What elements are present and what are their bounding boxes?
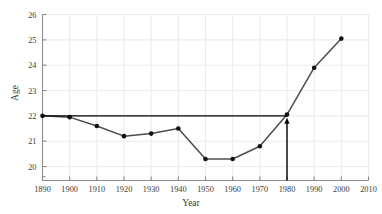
- y-tick-label: 26: [28, 11, 36, 20]
- grid-lines: [43, 15, 369, 181]
- arrow-head-icon: [284, 118, 289, 124]
- data-point-marker: [95, 124, 100, 129]
- data-point-marker: [230, 157, 235, 162]
- y-tick-label: 25: [28, 36, 36, 45]
- y-tick-label: 22: [28, 112, 36, 121]
- data-point-marker: [203, 157, 208, 162]
- data-point-marker: [312, 65, 317, 70]
- x-axis-ticks: 1890190019101920193019401950196019701980…: [34, 177, 377, 194]
- data-point-marker: [122, 134, 127, 139]
- x-tick-label: 1920: [116, 185, 133, 194]
- annotations-layer: [43, 116, 290, 181]
- data-point-marker: [339, 36, 344, 41]
- x-tick-label: 1960: [224, 185, 241, 194]
- x-tick-label: 1940: [170, 185, 187, 194]
- data-point-marker: [149, 131, 154, 136]
- data-point-marker: [176, 126, 181, 131]
- x-tick-label: 1890: [34, 185, 51, 194]
- x-tick-label: 1910: [89, 185, 106, 194]
- data-point-marker: [258, 144, 263, 149]
- x-tick-label: 1930: [143, 185, 160, 194]
- y-tick-label: 24: [28, 61, 37, 70]
- y-axis-ticks: 20212223242526: [28, 11, 46, 177]
- x-tick-label: 1970: [252, 185, 269, 194]
- data-point-markers: [40, 36, 343, 161]
- chart-figure: Age Year 20212223242526 1890190019101920…: [0, 0, 382, 214]
- plot-area: 20212223242526 1890190019101920193019401…: [0, 0, 382, 214]
- x-tick-label: 2010: [360, 185, 377, 194]
- y-tick-label: 23: [28, 87, 36, 96]
- x-tick-label: 1950: [197, 185, 214, 194]
- x-tick-label: 1980: [279, 185, 296, 194]
- x-tick-label: 1900: [61, 185, 78, 194]
- y-tick-label: 20: [28, 163, 36, 172]
- x-tick-label: 2000: [333, 185, 350, 194]
- x-tick-label: 1990: [306, 185, 323, 194]
- y-tick-label: 21: [28, 137, 36, 146]
